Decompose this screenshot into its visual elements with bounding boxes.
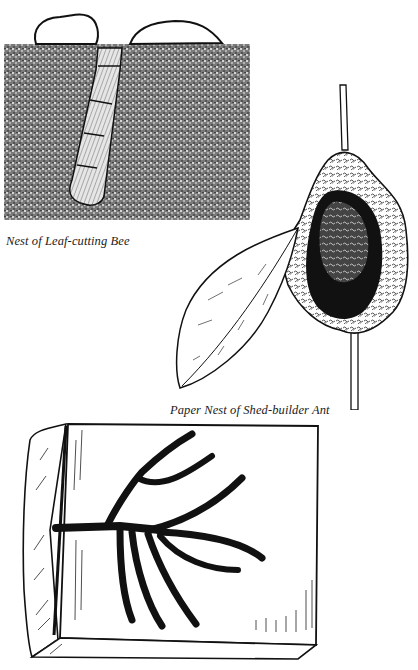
- caption-leaf-cutting-bee: Nest of Leaf-cutting Bee: [6, 234, 130, 249]
- leaf: [177, 228, 298, 388]
- shed-builder-ant-nest-illustration: [168, 80, 418, 410]
- stone-right: [130, 21, 222, 44]
- caption-shed-builder-ant: Paper Nest of Shed-builder Ant: [170, 403, 330, 418]
- stone-left: [35, 14, 98, 44]
- plant-stem-bottom: [351, 330, 358, 410]
- branching-gallery-illustration: [20, 420, 340, 670]
- plant-stem-top: [340, 85, 348, 150]
